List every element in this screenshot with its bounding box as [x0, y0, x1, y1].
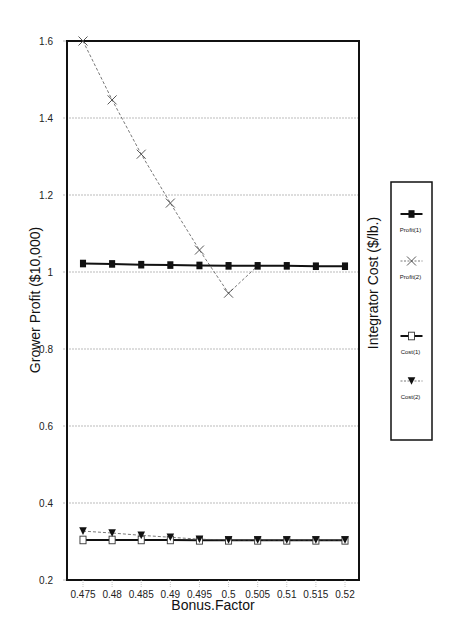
legend-label: Cost(1) — [401, 349, 421, 355]
legend-box — [391, 182, 432, 440]
x-tick-label: 0.485 — [129, 589, 154, 600]
y-tick-label: 0.4 — [39, 498, 53, 509]
filled-square-marker — [313, 262, 319, 270]
line-chart: 0.20.40.60.811.21.41.6 0.4750.480.4850.4… — [0, 0, 457, 644]
x-marker — [224, 289, 233, 298]
x-marker — [195, 246, 204, 255]
x-tick-label: 0.52 — [335, 589, 355, 600]
filled-square-marker — [255, 262, 261, 270]
x-tick-label: 0.515 — [303, 589, 328, 600]
filled-square-marker — [138, 261, 144, 269]
legend-label: Profit(1) — [400, 227, 421, 233]
series-line — [83, 41, 258, 293]
x-marker — [108, 95, 117, 104]
filled-square-marker — [196, 262, 202, 270]
legend-label: Profit(2) — [400, 274, 421, 280]
y-tick-label: 1 — [47, 267, 53, 278]
y-tick-label: 1.6 — [39, 36, 53, 47]
open-square-marker — [109, 536, 115, 544]
filled-square-marker — [109, 260, 115, 268]
x-axis-title: Bonus.Factor — [171, 597, 255, 613]
y-tick-label: 0.2 — [39, 575, 53, 586]
gridlines — [63, 41, 359, 580]
x-marker — [137, 150, 146, 159]
filled-square-marker — [408, 210, 414, 218]
legend-label: Cost(2) — [401, 394, 421, 400]
filled-square-marker — [80, 260, 86, 268]
open-square-marker — [80, 536, 86, 544]
series-line — [83, 531, 345, 540]
filled-square-marker — [167, 261, 173, 269]
y-tick-label: 1.2 — [39, 190, 53, 201]
y-tick-label: 0.6 — [39, 421, 53, 432]
y-tick-label: 1.4 — [39, 113, 53, 124]
x-tick-label: 0.475 — [70, 589, 95, 600]
legend: Profit(1)Profit(2)Cost(1)Cost(2) — [391, 182, 432, 440]
filled-square-marker — [226, 262, 232, 270]
y-axis-title-right: Integrator Cost ($/lb.) — [365, 217, 381, 349]
x-tick-label: 0.51 — [277, 589, 297, 600]
series-profit2 — [79, 37, 258, 298]
x-marker — [166, 199, 175, 208]
plot-area-border — [67, 41, 359, 580]
series-profit1 — [80, 260, 348, 270]
series-line — [83, 264, 345, 267]
open-square-marker — [408, 332, 414, 340]
series-layer — [79, 37, 349, 545]
filled-square-marker — [342, 262, 348, 270]
filled-square-marker — [284, 262, 290, 270]
y-axis-title-left: Grower Profit ($10,000) — [27, 227, 43, 373]
x-tick-label: 0.48 — [102, 589, 122, 600]
